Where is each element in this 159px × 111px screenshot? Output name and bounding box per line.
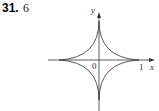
x-label: x xyxy=(150,62,154,72)
y-label: y xyxy=(91,5,95,15)
origin-label: 0 xyxy=(92,61,97,71)
y-arrow-icon xyxy=(97,12,101,18)
astroid-graph xyxy=(0,0,159,111)
x-tick-1: 1 xyxy=(139,62,144,72)
